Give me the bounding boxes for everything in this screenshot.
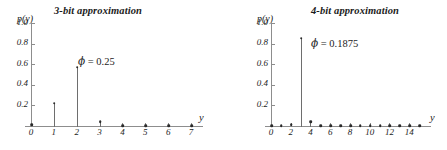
chart-panel-4bit: 4-bit approximation p(y) y 0.20.40.60.81… xyxy=(223,0,447,150)
x-tick-label-4bit: 2 xyxy=(285,127,297,137)
data-point-4bit xyxy=(310,121,313,124)
data-point-4bit xyxy=(408,125,411,128)
data-point-4bit xyxy=(280,125,283,128)
chart-panel-3bit: 3-bit approximation p(y) y 0.20.40.60.81… xyxy=(0,0,224,150)
data-point-3bit xyxy=(144,125,147,128)
chart-title-3bit: 3-bit approximation xyxy=(8,5,188,16)
x-tick-label-3bit: 5 xyxy=(139,127,151,137)
data-point-4bit xyxy=(369,125,372,128)
data-point-4bit xyxy=(339,125,342,128)
x-tick-label-3bit: 1 xyxy=(48,127,60,137)
data-point-4bit xyxy=(290,124,293,127)
data-stem-3bit xyxy=(77,67,78,127)
data-point-3bit xyxy=(99,121,102,124)
data-point-4bit xyxy=(389,125,392,128)
y-tick-label-4bit: 0.8 xyxy=(257,37,268,47)
data-stem-4bit xyxy=(301,38,302,127)
x-tick-label-3bit: 7 xyxy=(185,127,197,137)
data-point-4bit xyxy=(270,125,273,128)
y-tick-label-3bit: 0.4 xyxy=(17,78,28,88)
y-tick-3bit: 0.8 xyxy=(31,44,35,45)
y-tick-label-4bit: 0.6 xyxy=(257,58,268,68)
x-tick-label-4bit: 4 xyxy=(304,127,316,137)
x-tick-label-3bit: 0 xyxy=(25,127,37,137)
data-stem-3bit xyxy=(54,103,55,127)
y-tick-label-3bit: 0.6 xyxy=(17,58,28,68)
y-axis-line-3bit xyxy=(31,22,32,127)
y-tick-label-4bit: 1.0 xyxy=(257,17,268,27)
x-tick-label-4bit: 10 xyxy=(364,127,376,137)
x-axis-label-3bit: y xyxy=(199,112,204,123)
y-tick-4bit: 0.4 xyxy=(271,85,275,86)
data-point-3bit xyxy=(167,125,170,128)
x-tick-label-3bit: 2 xyxy=(71,127,83,137)
data-point-3bit xyxy=(122,125,125,128)
y-tick-3bit: 0.2 xyxy=(31,105,35,106)
x-tick-label-4bit: 14 xyxy=(403,127,415,137)
y-tick-4bit: 0.8 xyxy=(271,44,275,45)
x-tick-label-4bit: 12 xyxy=(383,127,395,137)
y-tick-4bit: 0.2 xyxy=(271,105,275,106)
data-point-3bit xyxy=(190,125,193,128)
y-tick-3bit: 1.0 xyxy=(31,23,35,24)
y-axis-line-4bit xyxy=(271,22,272,127)
x-tick-label-4bit: 6 xyxy=(324,127,336,137)
x-tick-label-3bit: 4 xyxy=(116,127,128,137)
data-point-4bit xyxy=(418,125,421,128)
phi-equals-4bit: = xyxy=(318,38,329,49)
phi-equals-3bit: = xyxy=(85,56,96,67)
y-tick-4bit: 0.6 xyxy=(271,64,275,65)
data-point-4bit xyxy=(320,125,323,128)
data-point-3bit xyxy=(30,124,33,127)
data-point-3bit xyxy=(53,102,56,105)
data-point-4bit xyxy=(379,125,382,128)
x-tick-label-4bit: 8 xyxy=(344,127,356,137)
y-tick-3bit: 0.6 xyxy=(31,64,35,65)
y-tick-label-3bit: 0.2 xyxy=(17,99,28,109)
x-axis-label-4bit: y xyxy=(430,112,435,123)
y-tick-label-3bit: 0.8 xyxy=(17,37,28,47)
y-tick-label-3bit: 1.0 xyxy=(17,17,28,27)
y-tick-label-4bit: 0.4 xyxy=(257,78,268,88)
data-point-4bit xyxy=(329,125,332,128)
phi-value-3bit: 0.25 xyxy=(96,56,114,67)
data-point-4bit xyxy=(359,125,362,128)
chart-title-4bit: 4-bit approximation xyxy=(265,5,445,16)
plot-area-3bit: 0.20.40.60.81.0 01234567 xyxy=(31,24,191,127)
phi-value-4bit: 0.1875 xyxy=(329,38,358,49)
phase-estimation-figure: 3-bit approximation p(y) y 0.20.40.60.81… xyxy=(0,0,447,150)
data-point-4bit xyxy=(398,125,401,128)
y-tick-3bit: 0.4 xyxy=(31,85,35,86)
x-tick-label-3bit: 3 xyxy=(94,127,106,137)
x-tick-label-4bit: 0 xyxy=(265,127,277,137)
phi-annotation-3bit: ϕ = 0.25 xyxy=(78,55,115,67)
data-point-4bit xyxy=(349,125,352,128)
x-tick-label-3bit: 6 xyxy=(162,127,174,137)
data-point-4bit xyxy=(300,37,303,40)
y-tick-4bit: 1.0 xyxy=(271,23,275,24)
y-tick-label-4bit: 0.2 xyxy=(257,99,268,109)
phi-annotation-4bit: ϕ = 0.1875 xyxy=(311,37,358,49)
